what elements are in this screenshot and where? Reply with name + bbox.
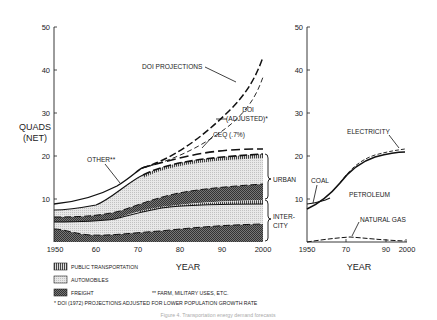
intercity-label-line1: INTER- — [273, 213, 295, 220]
other-label: OTHER** — [87, 156, 116, 163]
right-xtick-70: 70 — [342, 245, 350, 254]
right-xtick-1950: 1950 — [299, 245, 316, 254]
doi-projections-label: DOI PROJECTIONS — [142, 63, 203, 70]
urban-label: URBAN — [273, 176, 296, 183]
right-xtick-90: 90 — [382, 245, 390, 254]
left-xtick-1950: 1950 — [47, 245, 64, 254]
right-ytick-20: 20 — [295, 152, 303, 161]
legend-swatch-freight — [54, 289, 67, 296]
right-ytick-30: 30 — [295, 109, 303, 118]
right-ytick-40: 40 — [295, 66, 303, 75]
left-xtick-70: 70 — [134, 245, 142, 254]
legend-swatch-automobiles — [54, 276, 67, 283]
urban-brace — [265, 154, 271, 199]
legend-swatch-public-transportation — [54, 263, 67, 270]
transportation-energy-figure: 50 40 30 20 10 1950 60 70 80 90 2000 QUA… — [0, 0, 437, 320]
left-ytick-10: 10 — [42, 195, 50, 204]
right-axes: 50 40 30 20 10 1950 70 90 2000 YEAR — [295, 23, 416, 272]
left-ytick-50: 50 — [42, 23, 50, 32]
right-ytick-10: 10 — [295, 195, 303, 204]
intercity-label-line2: CITY — [273, 222, 289, 229]
legend-label-public-transportation: PUBLIC TRANSPORTATION — [71, 264, 138, 270]
legend: PUBLIC TRANSPORTATION AUTOMOBILES FREIGH… — [54, 263, 258, 306]
right-ytick-50: 50 — [295, 23, 303, 32]
coal-label: COAL — [311, 177, 329, 184]
left-ytick-40: 40 — [42, 66, 50, 75]
left-xtick-2000: 2000 — [255, 245, 272, 254]
note-other: ** FARM, MILITARY USES, ETC. — [152, 290, 228, 296]
legend-label-freight: FREIGHT — [71, 290, 95, 296]
electricity-label: ELECTRICITY — [347, 128, 390, 135]
y-axis-label-line1: QUADS — [19, 122, 51, 132]
right-xtick-2000: 2000 — [399, 245, 416, 254]
petroleum-label: PETROLEUM — [349, 191, 390, 198]
natural-gas-label: NATURAL GAS — [360, 216, 406, 223]
left-ytick-30: 30 — [42, 109, 50, 118]
y-axis-label-line2: (NET) — [23, 133, 47, 143]
right-annotations: ELECTRICITY COAL PETROLEUM NATURAL GAS — [311, 128, 406, 236]
right-x-axis-label: YEAR — [347, 262, 372, 272]
intercity-brace — [265, 200, 271, 241]
doi-adjusted-label-line2: (ADJUSTED)* — [226, 115, 268, 123]
right-chart: 50 40 30 20 10 1950 70 90 2000 YEAR ELEC… — [295, 23, 416, 272]
left-xtick-80: 80 — [176, 245, 184, 254]
left-xtick-60: 60 — [92, 245, 100, 254]
legend-label-automobiles: AUTOMOBILES — [71, 277, 109, 283]
left-xtick-90: 90 — [218, 245, 226, 254]
left-chart: 50 40 30 20 10 1950 60 70 80 90 2000 QUA… — [19, 23, 296, 272]
note-doi-adjusted: * DOI (1972) PROJECTIONS ADJUSTED FOR LO… — [54, 300, 258, 306]
left-ytick-20: 20 — [42, 152, 50, 161]
natural-gas-line — [307, 237, 405, 242]
doi-adjusted-label-line1: DOI — [242, 106, 254, 113]
left-x-axis-label: YEAR — [176, 262, 201, 272]
ceq-label: CEQ (.7%) — [213, 131, 245, 139]
figure-caption: Figure 4. Transportation energy demand f… — [160, 312, 275, 318]
electricity-line — [340, 149, 405, 183]
